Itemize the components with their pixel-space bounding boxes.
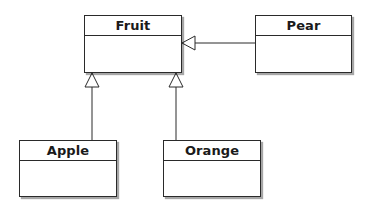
- hollow-triangle-arrowhead-icon: [85, 73, 99, 87]
- class-apple[interactable]: Apple: [19, 140, 117, 197]
- class-pear[interactable]: Pear: [255, 15, 352, 73]
- class-name-pear: Pear: [256, 16, 351, 36]
- class-orange[interactable]: Orange: [163, 140, 261, 197]
- uml-diagram-canvas: Fruit Pear Apple Orange: [0, 0, 371, 212]
- hollow-triangle-arrowhead-icon: [169, 73, 183, 87]
- class-name-orange: Orange: [164, 141, 260, 161]
- orange-to-fruit-generalization: [169, 73, 183, 140]
- apple-to-fruit-generalization: [85, 73, 99, 140]
- class-fruit[interactable]: Fruit: [84, 15, 182, 73]
- pear-to-fruit-generalization: [182, 36, 255, 50]
- class-name-apple: Apple: [20, 141, 116, 161]
- hollow-triangle-arrowhead-icon: [182, 36, 195, 50]
- class-name-fruit: Fruit: [85, 16, 181, 36]
